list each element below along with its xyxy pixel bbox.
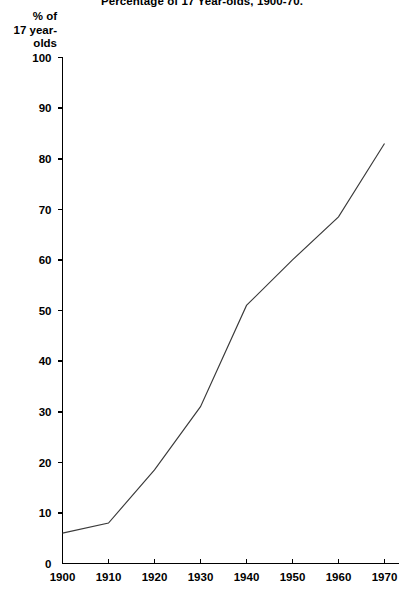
data-series-line — [63, 144, 385, 534]
plot-area: 0102030405060708090100 19001910192019301… — [0, 0, 404, 590]
y-tick-label: 40 — [39, 355, 52, 367]
y-tick-label: 90 — [39, 102, 52, 114]
x-tick-label: 1920 — [142, 571, 168, 583]
x-axis-ticks: 19001910192019301940195019601970 — [50, 559, 398, 583]
y-tick-label: 10 — [39, 507, 52, 519]
x-tick-label: 1900 — [50, 571, 76, 583]
x-tick-label: 1910 — [96, 571, 122, 583]
y-tick-label: 80 — [39, 153, 52, 165]
y-tick-label: 50 — [39, 305, 52, 317]
x-tick-label: 1940 — [234, 571, 260, 583]
x-tick-label: 1960 — [326, 571, 352, 583]
x-tick-label: 1950 — [280, 571, 306, 583]
y-tick-label: 70 — [39, 204, 52, 216]
y-tick-label: 100 — [32, 52, 51, 64]
y-tick-label: 0 — [45, 558, 51, 570]
chart-figure: Percentage of 17 Year-olds, 1900-70. % o… — [0, 0, 404, 590]
x-tick-label: 1930 — [188, 571, 214, 583]
y-tick-label: 20 — [39, 457, 52, 469]
y-tick-label: 60 — [39, 254, 52, 266]
x-tick-label: 1970 — [372, 571, 398, 583]
y-axis-ticks: 0102030405060708090100 — [32, 52, 62, 570]
axis-lines — [63, 58, 399, 564]
y-tick-label: 30 — [39, 406, 52, 418]
